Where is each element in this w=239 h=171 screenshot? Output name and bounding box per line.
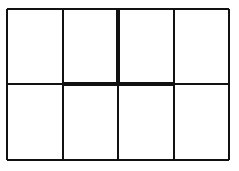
grid-figure [0, 0, 239, 171]
grid-canvas [0, 0, 239, 171]
grid-cell-r1-c1 [63, 84, 118, 160]
grid-cell-r0-c3 [174, 9, 229, 84]
grid-cell-r0-c2 [118, 9, 174, 84]
grid-cell-r0-c1 [63, 9, 118, 84]
grid-cell-r1-c2 [118, 84, 174, 160]
grid-cell-r1-c3 [174, 84, 229, 160]
grid-cell-r0-c0 [7, 9, 63, 84]
grid-cell-r1-c0 [7, 84, 63, 160]
